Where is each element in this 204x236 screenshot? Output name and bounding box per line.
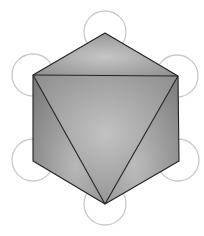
octahedron-faces <box>33 33 179 204</box>
face-top <box>33 33 178 76</box>
octahedron-diagram <box>0 0 204 236</box>
